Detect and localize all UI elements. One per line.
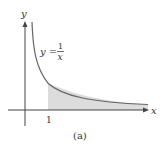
y-axis-arrow-icon	[23, 21, 28, 27]
equation-numerator: 1	[58, 42, 63, 51]
tick-label-1: 1	[46, 115, 52, 125]
caption: (a)	[73, 130, 87, 141]
y-axis-label: y	[20, 8, 27, 19]
equation-denominator: x	[58, 52, 63, 62]
plot: y x 1 y = 1 x (a)	[0, 0, 162, 150]
shaded-area	[48, 83, 148, 110]
equation-lhs: y =	[39, 46, 57, 57]
x-axis-label: x	[151, 105, 157, 116]
figure: y x 1 y = 1 x (a)	[0, 0, 162, 150]
